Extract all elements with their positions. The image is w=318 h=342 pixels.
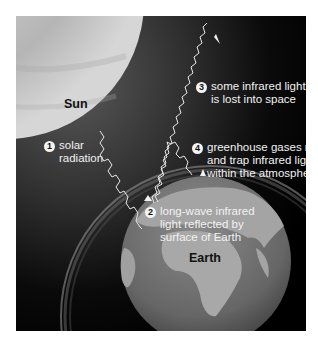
step-text: within the atmosphere: [192, 167, 306, 180]
step-text: is lost into space: [196, 93, 306, 106]
greenhouse-diagram: Sun Earth 1solar radiation 2long-wave in…: [16, 16, 306, 331]
step-text: long-wave infrared: [160, 205, 255, 217]
step-number-badge: 4: [192, 143, 203, 154]
step-text: radiation: [44, 152, 103, 165]
sun: [16, 16, 144, 139]
step-4-greenhouse-trap: 4greenhouse gases reflect and trap infra…: [192, 141, 306, 180]
step-text: some infrared light: [211, 80, 306, 92]
step-number-badge: 3: [196, 82, 207, 93]
step-2-infrared-reflected: 2long-wave infrared light reflected by s…: [145, 205, 255, 244]
step-text: greenhouse gases reflect: [207, 141, 306, 153]
step-1-solar-radiation: 1solar radiation: [44, 139, 103, 165]
step-text: light reflected by: [145, 218, 255, 231]
sun-label: Sun: [64, 97, 88, 111]
step-text: surface of Earth: [145, 231, 255, 244]
earth-label: Earth: [189, 251, 221, 265]
step-number-badge: 2: [145, 207, 156, 218]
step-number-badge: 1: [44, 141, 55, 152]
step-text: and trap infrared light: [192, 154, 306, 167]
step-3-lost-to-space: 3some infrared light is lost into space: [196, 80, 306, 106]
step-text: solar: [59, 139, 84, 151]
